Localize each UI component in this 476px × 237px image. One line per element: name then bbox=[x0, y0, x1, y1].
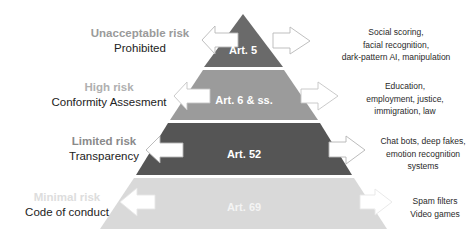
example-line: immigration, law bbox=[345, 105, 465, 118]
article-label: Art. 52 bbox=[214, 148, 274, 160]
risk-level: Minimal risk bbox=[12, 190, 122, 205]
example-line: Education, bbox=[345, 80, 465, 93]
risk-level: Limited risk bbox=[54, 134, 154, 149]
article-label: Art. 69 bbox=[214, 201, 274, 213]
tier-high-examples: Education, employment, justice, immigrat… bbox=[345, 80, 465, 118]
tier-limited-examples: Chat bots, deep fakes, emotion recogniti… bbox=[370, 135, 476, 173]
example-line: dark-pattern AI, manipulation bbox=[318, 51, 474, 64]
tier-minimal-label: Minimal risk Code of conduct bbox=[12, 190, 122, 220]
example-line: facial recognition, bbox=[318, 39, 474, 52]
article-label: Art. 5 bbox=[213, 44, 273, 56]
tier-unacceptable-examples: Social scoring, facial recognition, dark… bbox=[318, 26, 474, 64]
example-line: Video games bbox=[400, 208, 470, 221]
example-line: employment, justice, bbox=[345, 93, 465, 106]
regime: Prohibited bbox=[80, 41, 200, 56]
right-arrow-icon bbox=[273, 27, 310, 54]
regime: Code of conduct bbox=[12, 205, 122, 220]
example-line: emotion recognition bbox=[370, 148, 476, 161]
example-line: Chat bots, deep fakes, bbox=[370, 135, 476, 148]
risk-level: Unacceptable risk bbox=[80, 26, 200, 41]
tier-limited-label: Limited risk Transparency bbox=[54, 134, 154, 164]
example-line: Social scoring, bbox=[318, 26, 474, 39]
example-line: systems bbox=[370, 160, 476, 173]
tier-high-label: High risk Conformity Assesment bbox=[44, 80, 174, 110]
regime: Transparency bbox=[54, 149, 154, 164]
risk-level: High risk bbox=[44, 80, 174, 95]
article-label: Art. 6 & ss. bbox=[204, 94, 284, 106]
tier-unacceptable-label: Unacceptable risk Prohibited bbox=[80, 26, 200, 56]
example-line: Spam filters bbox=[400, 195, 470, 208]
tier-minimal-examples: Spam filters Video games bbox=[400, 195, 470, 220]
regime: Conformity Assesment bbox=[44, 95, 174, 110]
